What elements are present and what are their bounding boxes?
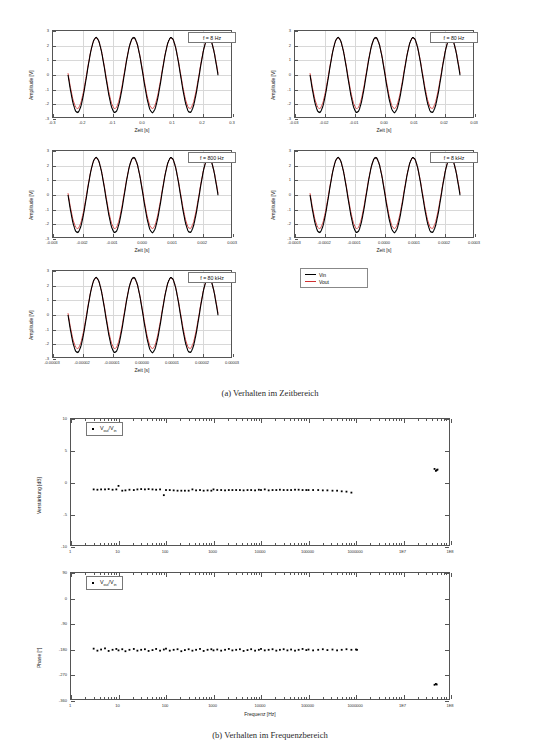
x-tick-label: 1000000 <box>347 549 362 554</box>
frequency-label-p1: f = 8 Hz <box>188 32 236 43</box>
x-tick-label: -0.0001 <box>347 240 360 245</box>
y-tick-label: 1 <box>37 57 49 62</box>
y-tick-label: 0 <box>279 192 291 197</box>
x-tick-label: 0.00 <box>380 120 388 125</box>
bode-legend-phase-plot: Vout/Vin <box>86 576 123 590</box>
legend-line-vout <box>305 281 316 282</box>
x-tick-label: 1E7 <box>399 549 406 554</box>
x-tick-label: -0.001 <box>106 240 117 245</box>
x-tick-label: -0.00003 <box>44 360 59 365</box>
waveform-traces <box>53 151 233 239</box>
y-tick-label: 0 <box>279 72 291 77</box>
x-tick-label: 1 <box>69 549 71 554</box>
legend-marker <box>92 582 94 584</box>
y-axis-title: Amplitude [V] <box>270 190 276 220</box>
x-tick-label: 1E7 <box>399 703 406 708</box>
frequency-label-p4: f = 8 kHz <box>430 152 478 163</box>
x-tick-label: 0.2 <box>199 120 204 125</box>
x-tick <box>233 114 234 117</box>
plot-frame <box>52 270 232 358</box>
caption-subfigure-a: (a) Verhalten im Zeitbereich <box>0 388 540 398</box>
x-tick-label: 1 <box>69 703 71 708</box>
x-tick-label: 1000 <box>208 703 217 708</box>
y-tick-label: 1 <box>279 57 291 62</box>
x-tick-label: -0.0002 <box>317 240 330 245</box>
y-tick-label: -5 <box>51 512 67 517</box>
x-tick <box>233 354 234 357</box>
x-tick-label: 0.002 <box>197 240 207 245</box>
x-tick-label: 1E8 <box>447 549 454 554</box>
x-tick-label: 0.0003 <box>468 240 480 245</box>
x-tick-label: -0.00002 <box>74 360 89 365</box>
x-tick-label: -0.0003 <box>287 240 300 245</box>
y-tick-label: 2 <box>279 42 291 47</box>
y-tick-label: 2 <box>37 282 49 287</box>
x-axis-title: Zeit [s] <box>52 247 232 253</box>
plot-frame <box>70 572 450 700</box>
x-tick-label: 0.02 <box>440 120 448 125</box>
x-tick-label: 0.0001 <box>408 240 420 245</box>
waveform-traces <box>53 271 233 359</box>
x-tick-label: 1000 <box>208 549 217 554</box>
x-tick-label: 10000 <box>255 549 266 554</box>
plot-frame <box>52 150 232 238</box>
subfigure-frequency-domain: 11010010001000010000010000001E71E81050-5… <box>0 400 540 755</box>
x-tick-label: 100000 <box>301 549 314 554</box>
legend-row: Vout <box>305 278 363 285</box>
x-tick-label: 0.0 <box>139 120 144 125</box>
y-tick-label: 0 <box>51 595 67 600</box>
y-tick-label: 0 <box>37 192 49 197</box>
x-tick-label: -0.03 <box>290 120 299 125</box>
x-tick-label: -0.2 <box>79 120 86 125</box>
y-major-tick <box>71 701 75 702</box>
x-tick-label: -0.002 <box>76 240 87 245</box>
x-tick-label: 10000 <box>255 703 266 708</box>
bode-legend-gain-plot: Vout/Vin <box>86 422 123 436</box>
x-tick-label: -0.1 <box>109 120 116 125</box>
plot-frame <box>52 30 232 118</box>
x-tick-label: 0.01 <box>410 120 418 125</box>
y-tick-label: 10 <box>51 416 67 421</box>
x-tick-label: -0.3 <box>49 120 56 125</box>
x-tick-label: 0.00000 <box>135 360 149 365</box>
y-tick-label: 3 <box>37 268 49 273</box>
x-tick <box>475 234 476 237</box>
waveform-traces <box>295 31 475 119</box>
y-tick-label: 5 <box>51 448 67 453</box>
legend-label: Vout/Vin <box>100 579 117 587</box>
x-tick-label: 100000 <box>301 703 314 708</box>
x-major-tick-top <box>451 573 452 577</box>
waveform-traces <box>295 151 475 239</box>
y-tick-label: -2 <box>37 341 49 346</box>
legend-label: Vout <box>319 279 329 285</box>
x-tick-label: -0.00001 <box>104 360 119 365</box>
y-tick-label: -90 <box>51 621 67 626</box>
y-tick-label: 0 <box>37 312 49 317</box>
y-tick-label: 3 <box>37 28 49 33</box>
y-tick-label: 0 <box>37 72 49 77</box>
y-tick-label: -2 <box>37 221 49 226</box>
x-axis-title: Zeit [s] <box>294 247 474 253</box>
x-tick-label: 0.1 <box>169 120 174 125</box>
y-tick-label: 1 <box>37 177 49 182</box>
y-major-tick-right <box>445 547 449 548</box>
x-tick-label: 0.000 <box>137 240 147 245</box>
y-tick-label: 3 <box>37 148 49 153</box>
y-tick-label: -1 <box>37 86 49 91</box>
y-tick-label: -2 <box>37 101 49 106</box>
x-major-tick <box>451 695 452 699</box>
frequency-label-p3: f = 800 Hz <box>188 152 236 163</box>
scatter-points <box>71 573 451 701</box>
frequency-label-p2: f = 80 Hz <box>430 32 478 43</box>
plot-frame <box>70 418 450 546</box>
x-tick-label: 10 <box>115 703 119 708</box>
subfigure-time-domain: 3210-1-2-3-0.3-0.2-0.10.00.10.20.3f = 8 … <box>0 0 540 400</box>
x-tick-label: 0.001 <box>167 240 177 245</box>
plot-frame <box>294 150 474 238</box>
x-tick-label: 0.0002 <box>438 240 450 245</box>
y-tick-label: 1 <box>279 177 291 182</box>
y-tick-label: -180 <box>51 646 67 651</box>
scatter-points <box>71 419 451 547</box>
x-tick-label: 1E8 <box>447 703 454 708</box>
y-axis-title: Amplitude [V] <box>270 70 276 100</box>
